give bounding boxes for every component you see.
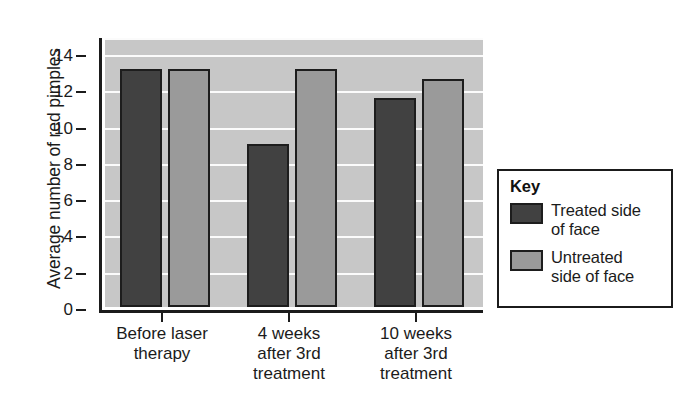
x-axis-label-line: after 3rd [341, 344, 491, 364]
legend-label-line: side of face [551, 267, 634, 286]
y-tick-label: 4 [64, 227, 73, 247]
bar-untreated-1 [295, 69, 337, 307]
y-tick-label: 8 [64, 155, 73, 175]
bar-untreated-0 [168, 69, 210, 307]
y-axis-tick-labels: 02468101214 [45, 38, 87, 313]
chart-legend: Key Treated sideof faceUntreatedside of … [497, 169, 673, 308]
y-tick-label: 2 [64, 264, 73, 284]
y-tick-mark [76, 91, 86, 93]
bar-untreated-2 [422, 79, 464, 307]
legend-item: Treated sideof face [510, 201, 662, 239]
x-axis-label: 10 weeksafter 3rdtreatment [341, 324, 491, 384]
legend-label: Untreatedside of face [551, 248, 634, 286]
y-tick-mark [76, 55, 86, 57]
gridline [105, 55, 483, 57]
y-tick-label: 0 [64, 300, 73, 320]
y-tick-label: 12 [54, 82, 73, 102]
plot-frame [99, 38, 483, 313]
y-tick-mark [76, 164, 86, 166]
x-tick-mark [288, 313, 290, 322]
y-tick-mark [76, 128, 86, 130]
legend-entries: Treated sideof faceUntreatedside of face [510, 201, 662, 286]
gridline [105, 38, 483, 40]
legend-title: Key [510, 177, 662, 196]
legend-swatch-untreated [510, 250, 543, 271]
y-tick-mark [76, 309, 86, 311]
x-tick-mark [161, 313, 163, 322]
y-tick-mark [76, 236, 86, 238]
legend-label-line: Untreated [551, 248, 634, 267]
bar-chart-figure: Average number of red pimples 0246810121… [0, 0, 689, 412]
legend-label: Treated sideof face [551, 201, 641, 239]
y-tick-mark [76, 200, 86, 202]
x-axis-label-line: treatment [341, 364, 491, 384]
legend-item: Untreatedside of face [510, 248, 662, 286]
y-tick-label: 6 [64, 191, 73, 211]
legend-label-line: of face [551, 220, 641, 239]
bar-treated-0 [120, 69, 162, 307]
bar-treated-2 [374, 98, 416, 307]
x-axis-label-line: 10 weeks [341, 324, 491, 344]
y-tick-label: 14 [54, 46, 73, 66]
y-tick-label: 10 [54, 119, 73, 139]
legend-swatch-treated [510, 203, 543, 224]
plot-area [105, 38, 483, 307]
x-tick-mark [415, 313, 417, 322]
legend-label-line: Treated side [551, 201, 641, 220]
y-tick-mark [76, 273, 86, 275]
bar-treated-1 [247, 144, 289, 307]
